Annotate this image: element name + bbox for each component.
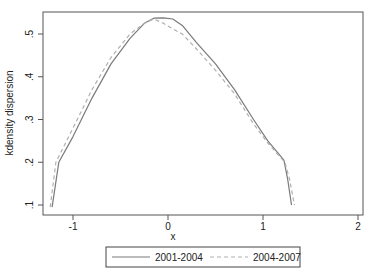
legend-label-2001-2004: 2001-2004 [155, 252, 203, 263]
y-tick-label: .2 [24, 158, 35, 167]
y-tick-label: .4 [24, 72, 35, 81]
x-tick-label: -1 [69, 221, 78, 232]
x-axis: -1012 [69, 215, 362, 232]
y-axis-title: kdensity dispersion [4, 70, 15, 155]
y-axis: .1.2.3.4.5 [24, 29, 43, 209]
plot-area [43, 12, 363, 215]
x-tick-label: 1 [260, 221, 266, 232]
x-tick-label: 2 [355, 221, 361, 232]
y-tick-label: .3 [24, 115, 35, 124]
x-axis-title: x [171, 231, 176, 242]
legend: 2001-2004 2004-2007 [106, 247, 301, 267]
legend-label-2004-2007: 2004-2007 [253, 252, 301, 263]
kdensity-chart: .1.2.3.4.5 -1012 kdensity dispersion x 2… [0, 0, 376, 273]
y-tick-label: .1 [24, 200, 35, 209]
plot-frame [43, 12, 363, 215]
y-tick-label: .5 [24, 29, 35, 38]
